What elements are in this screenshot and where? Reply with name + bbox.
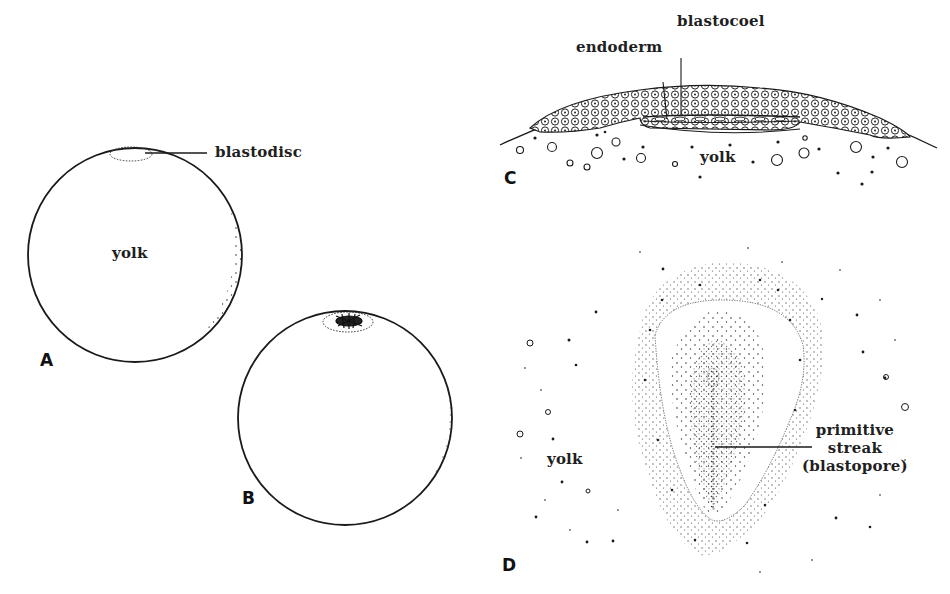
- label-blastocoel: blastocoel: [677, 12, 765, 30]
- label-primitive-streak: primitive streak (blastopore): [802, 421, 908, 475]
- label-blastodisc: blastodisc: [215, 143, 302, 161]
- panel-letter-d: D: [502, 555, 516, 575]
- panel-c-section: [500, 58, 937, 186]
- label-primitive-streak-line2: streak: [802, 439, 908, 457]
- label-primitive-streak-line1: primitive: [802, 421, 908, 439]
- panel-letter-c: C: [504, 168, 516, 188]
- label-primitive-streak-line3: (blastopore): [802, 457, 908, 475]
- label-yolk-a: yolk: [112, 244, 148, 262]
- label-yolk-d: yolk: [547, 450, 583, 468]
- label-endoderm: endoderm: [576, 38, 662, 56]
- panel-d-surface-view: [517, 247, 909, 573]
- panel-letter-b: B: [242, 488, 255, 508]
- label-yolk-c: yolk: [700, 148, 736, 166]
- panel-letter-a: A: [40, 350, 53, 370]
- figure-artwork: [0, 0, 950, 594]
